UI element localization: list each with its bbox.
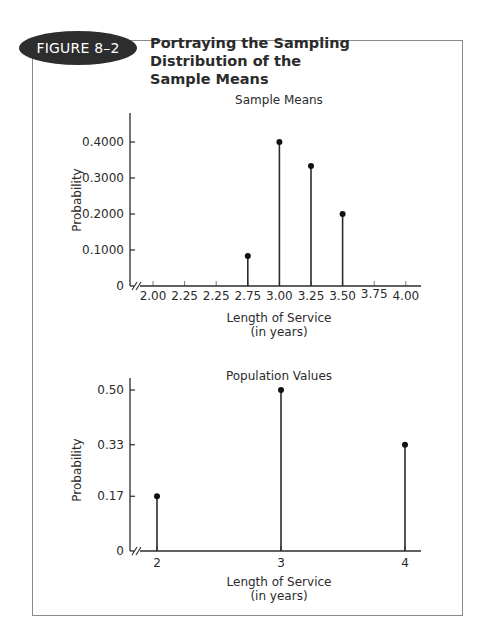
x-tick-label: 2.25 [171, 289, 198, 303]
y-axis-ticks: 00.10000.20000.30000.4000 [82, 135, 135, 293]
y-tick-label: 0 [116, 279, 124, 293]
x-tick-label: 3.50 [329, 289, 356, 303]
y-tick-label: 0.50 [97, 383, 124, 397]
axis-break-icon [130, 547, 141, 555]
x-tick-label: 4 [401, 556, 409, 570]
population-values-chart: Population Values 00.170.330.50 234 Prob… [70, 369, 421, 603]
x-axis-sublabel: (in years) [250, 325, 307, 339]
stems [154, 387, 408, 551]
stem-point [278, 387, 284, 393]
x-tick-label: 2.75 [234, 289, 261, 303]
y-axis-ticks: 00.170.330.50 [97, 383, 135, 558]
sample-means-chart: Sample Means 00.10000.20000.30000.4000 2… [70, 93, 421, 339]
x-axis-label: Length of Service [227, 575, 332, 589]
stem-point [245, 253, 251, 259]
stem-point [308, 163, 314, 169]
y-tick-label: 0.33 [97, 438, 124, 452]
x-tick-label: 2 [153, 556, 161, 570]
stem-point [402, 442, 408, 448]
x-tick-label: 2.25 [203, 289, 230, 303]
x-tick-label: 3.00 [266, 289, 293, 303]
charts-canvas: Sample Means 00.10000.20000.30000.4000 2… [0, 0, 490, 644]
x-tick-label: 3 [277, 556, 285, 570]
y-tick-label: 0 [116, 544, 124, 558]
stem-point [340, 211, 346, 217]
chart-title: Sample Means [235, 93, 323, 107]
stem-point [154, 493, 160, 499]
x-tick-label: 3.75 [361, 287, 388, 301]
chart-title: Population Values [226, 369, 332, 383]
y-tick-label: 0.1000 [82, 243, 124, 257]
y-axis-label: Probability [70, 168, 84, 231]
x-tick-label: 2.00 [140, 289, 167, 303]
y-tick-label: 0.2000 [82, 207, 124, 221]
stems [245, 139, 346, 286]
y-tick-label: 0.4000 [82, 135, 124, 149]
x-axis-label: Length of Service [227, 311, 332, 325]
y-axis-label: Probability [70, 438, 84, 501]
x-tick-label: 4.00 [392, 289, 419, 303]
stem-point [276, 139, 282, 145]
y-tick-label: 0.17 [97, 489, 124, 503]
x-tick-label: 3.25 [298, 289, 325, 303]
y-tick-label: 0.3000 [82, 171, 124, 185]
x-axis-sublabel: (in years) [250, 589, 307, 603]
